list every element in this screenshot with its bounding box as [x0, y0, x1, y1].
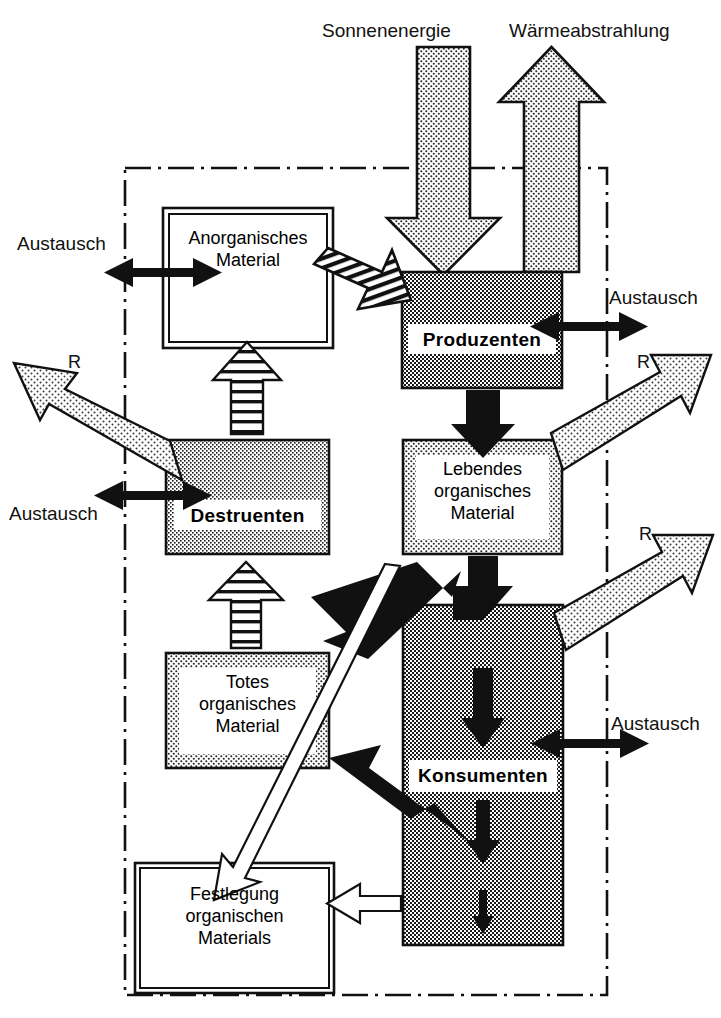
arrow-destruenten-to-anorganisches: [213, 342, 281, 434]
boxlabel-line: Material: [167, 250, 329, 272]
heat-radiation-arrow: [499, 47, 604, 272]
boxlabel-line: organisches: [412, 481, 553, 503]
boxlabel-line: Konsumenten: [409, 764, 557, 787]
boxlabel-line: Totes: [176, 672, 319, 694]
boxlabel-destruenten: Destruenten: [174, 504, 321, 527]
boxlabel-line: Material: [412, 503, 553, 525]
boxlabel-line: Material: [176, 716, 319, 738]
label-austausch-destruenten: Austausch: [9, 503, 98, 525]
boxlabel-festlegung-organischen-materials: Festlegung organischen Materials: [142, 884, 327, 950]
label-r-konsumenten: R: [639, 524, 652, 545]
label-austausch-konsumenten: Austausch: [611, 713, 700, 735]
ecosystem-energy-flow-diagram: Sonnenenergie Wärmeabstrahlung Austausch…: [0, 0, 721, 1018]
label-r-produzenten: R: [637, 352, 650, 373]
boxlabel-totes-organisches-material: Totes organisches Material: [176, 672, 319, 738]
boxlabel-line: organisches: [176, 694, 319, 716]
boxlabel-produzenten: Produzenten: [408, 328, 556, 351]
boxlabel-konsumenten: Konsumenten: [409, 764, 557, 787]
label-sonnenenergie: Sonnenenergie: [322, 20, 451, 42]
solar-energy-arrow: [387, 47, 500, 275]
boxlabel-line: organischen: [142, 906, 327, 928]
arrow-respiration-konsumenten: [554, 535, 713, 650]
boxlabel-lebendes-organisches-material: Lebendes organisches Material: [412, 459, 553, 525]
arrow-totes-to-destruenten: [209, 562, 283, 648]
boxlabel-line: Produzenten: [408, 328, 556, 351]
label-austausch-anorganisches: Austausch: [17, 233, 106, 255]
arrow-konsumenten-to-festlegung: [327, 884, 401, 923]
boxlabel-line: Festlegung: [142, 884, 327, 906]
boxlabel-anorganisches-material: Anorganisches Material: [167, 228, 329, 272]
boxlabel-line: Destruenten: [174, 504, 321, 527]
diagram-canvas: [0, 0, 721, 1018]
boxlabel-line: Lebendes: [412, 459, 553, 481]
arrow-respiration-produzenten: [551, 355, 711, 470]
boxlabel-line: Anorganisches: [167, 228, 329, 250]
label-r-destruenten: R: [68, 352, 81, 373]
arrow-respiration-destruenten: [14, 363, 182, 480]
boxlabel-line: Materials: [142, 928, 327, 950]
label-austausch-produzenten: Austausch: [609, 287, 698, 309]
label-waermeabstrahlung: Wärmeabstrahlung: [509, 20, 670, 42]
